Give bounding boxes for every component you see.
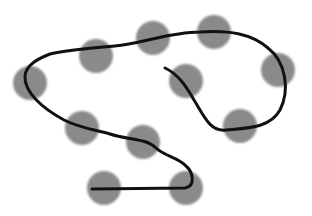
circles-and-curve-drawing: [0, 0, 312, 216]
gray-circle: [13, 66, 47, 100]
gray-circle: [169, 64, 203, 98]
diagram-canvas: [0, 0, 312, 216]
circle-group: [13, 15, 295, 205]
gray-circle: [79, 39, 113, 73]
